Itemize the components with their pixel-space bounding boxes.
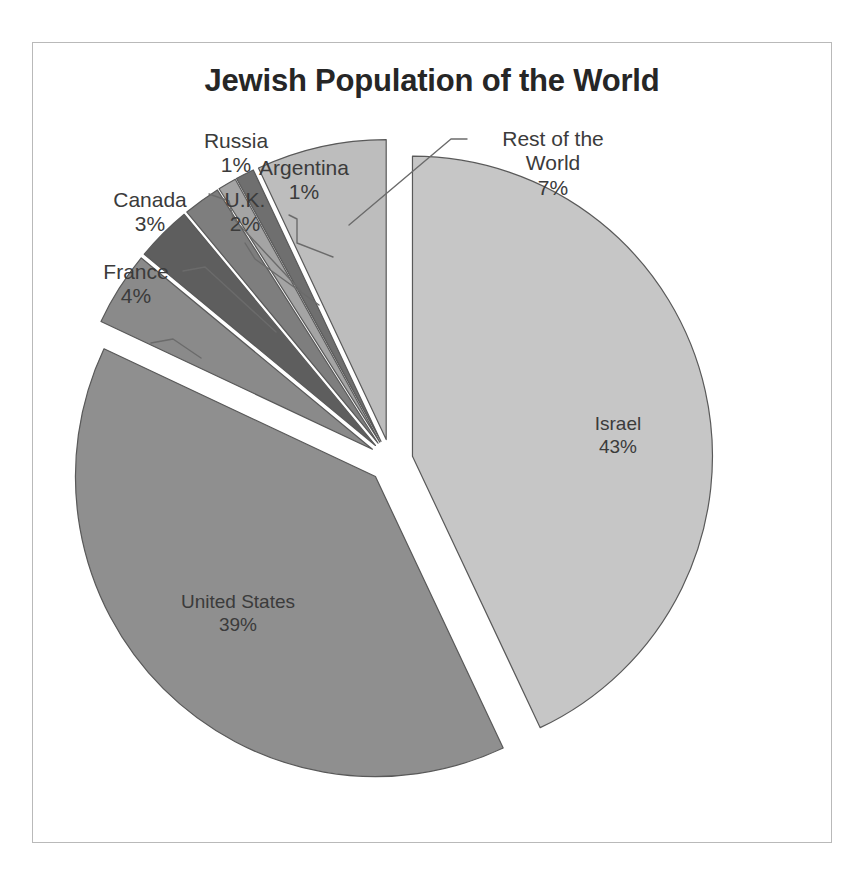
pie-label-france-name: France [77,260,195,284]
pie-label-canada: Canada 3% [91,188,209,237]
page-bottom-margin [0,843,858,875]
pie-label-israel-name: Israel [563,413,673,436]
pie-label-united-states: United States 39% [143,591,333,637]
pie-label-uk: U.K. 2% [205,188,285,237]
pie-label-united-states-name: United States [143,591,333,614]
pie-label-france-value: 4% [77,284,195,308]
pie-label-rest-of-the-world-name-line2: World [473,151,633,175]
pie-label-israel: Israel 43% [563,413,673,459]
pie-label-uk-value: 2% [205,212,285,236]
pie-label-russia-name: Russia [181,129,291,153]
pie-label-france: France 4% [77,260,195,309]
pie-label-united-states-value: 39% [143,614,333,637]
pie-label-rest-of-the-world: Rest of the World 7% [473,127,633,200]
pie-label-rest-of-the-world-value: 7% [473,176,633,200]
pie-label-canada-name: Canada [91,188,209,212]
chart-frame: Jewish Population of the World Russia 1%… [32,42,832,843]
pie-label-israel-value: 43% [563,436,673,459]
pie-label-rest-of-the-world-name-line1: Rest of the [473,127,633,151]
pie-label-uk-name: U.K. [205,188,285,212]
pie-chart-graphic [33,43,833,844]
pie-label-argentina-name: Argentina [239,156,369,180]
pie-label-canada-value: 3% [91,212,209,236]
